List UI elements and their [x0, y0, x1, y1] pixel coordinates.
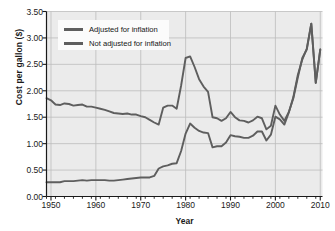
- legend-label: Adjusted for inflation: [89, 26, 158, 34]
- x-axis-tick-label: 1980: [176, 200, 195, 210]
- legend-item-not-adjusted: Not adjusted for inflation: [58, 37, 169, 50]
- x-axis-tick-labels: 1950196019701980199020002010: [0, 200, 335, 216]
- chart-figure: Cost per gallon ($) 0.000.501.001.502.00…: [0, 0, 335, 231]
- x-axis-tick-label: 1990: [221, 200, 240, 210]
- x-axis-tick-label: 2010: [311, 200, 330, 210]
- x-axis-tick-label: 1970: [131, 200, 150, 210]
- x-axis-title: Year: [46, 216, 323, 226]
- legend-swatch-icon: [64, 28, 83, 31]
- chart-legend: Adjusted for inflation Not adjusted for …: [58, 20, 169, 50]
- legend-swatch-icon: [64, 42, 83, 45]
- x-axis-tick-label: 1950: [42, 200, 61, 210]
- legend-item-adjusted: Adjusted for inflation: [58, 23, 169, 36]
- x-axis-tick-label: 2000: [266, 200, 285, 210]
- x-axis-tick-label: 1960: [86, 200, 105, 210]
- legend-label: Not adjusted for inflation: [89, 40, 171, 48]
